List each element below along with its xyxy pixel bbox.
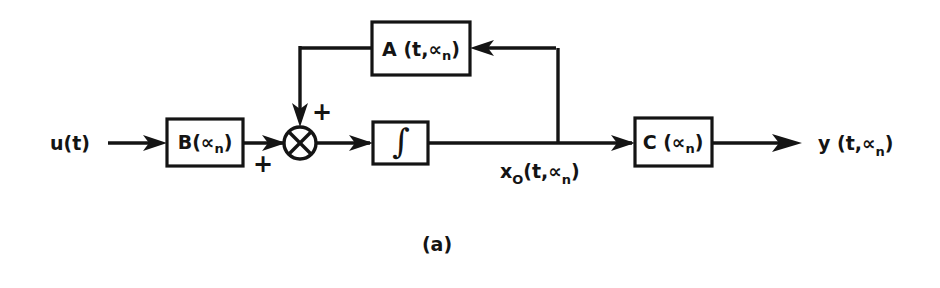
wire-input-to-b bbox=[108, 135, 167, 151]
plus-sign-forward: + bbox=[253, 150, 273, 178]
block-a[interactable]: A (t,∝n) bbox=[372, 22, 470, 75]
block-c[interactable]: C (∝n) bbox=[635, 118, 712, 166]
block-integrator[interactable]: ∫ bbox=[373, 121, 428, 164]
state-signal-label: xO(t,∝n) bbox=[500, 160, 580, 187]
input-signal-label: u(t) bbox=[50, 132, 90, 154]
block-diagram-figure: A (t,∝n) B(∝n) ∫ C (∝n) + bbox=[0, 0, 940, 288]
plus-sign-feedback: + bbox=[312, 98, 332, 126]
figure-caption: (a) bbox=[422, 233, 452, 255]
diagram-canvas: A (t,∝n) B(∝n) ∫ C (∝n) + bbox=[0, 0, 940, 288]
block-c-label: C (∝n) bbox=[643, 131, 704, 156]
wire-feedback-up bbox=[470, 40, 558, 144]
wire-b-to-sum bbox=[243, 135, 286, 151]
wire-state-line bbox=[428, 135, 635, 151]
block-b[interactable]: B(∝n) bbox=[167, 119, 243, 166]
wire-c-to-output bbox=[712, 134, 802, 152]
integral-icon: ∫ bbox=[392, 121, 410, 161]
output-signal-label: y (t,∝n) bbox=[818, 132, 893, 159]
block-b-label: B(∝n) bbox=[178, 131, 233, 156]
wire-sum-to-integrator bbox=[316, 135, 373, 151]
